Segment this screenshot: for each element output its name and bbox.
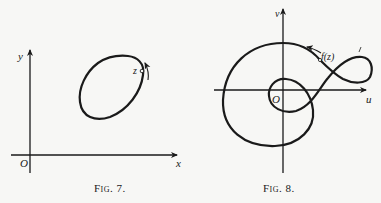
fig7-direction-arrow-icon bbox=[145, 63, 148, 80]
fig8-u-label: u bbox=[366, 94, 372, 105]
fig7-point-z-label: z bbox=[133, 66, 137, 76]
fig7-caption: Fig. 7. bbox=[94, 183, 126, 194]
fig8-image-curve bbox=[223, 43, 372, 146]
fig8-point-fz-label: f(z) bbox=[321, 52, 334, 62]
fig8-side-mark bbox=[359, 47, 361, 52]
fig7-origin-label: O bbox=[20, 158, 28, 169]
fig8-diagram bbox=[214, 9, 372, 173]
fig7-x-label: x bbox=[176, 158, 181, 169]
fig7-point-z bbox=[140, 69, 144, 73]
fig8-origin-label: O bbox=[272, 94, 280, 105]
fig8-caption: Fig. 8. bbox=[263, 183, 295, 194]
fig8-v-label: v bbox=[275, 9, 279, 19]
fig7-y-label: y bbox=[18, 51, 23, 62]
figure-canvas bbox=[0, 0, 381, 203]
fig7-diagram bbox=[11, 50, 177, 173]
